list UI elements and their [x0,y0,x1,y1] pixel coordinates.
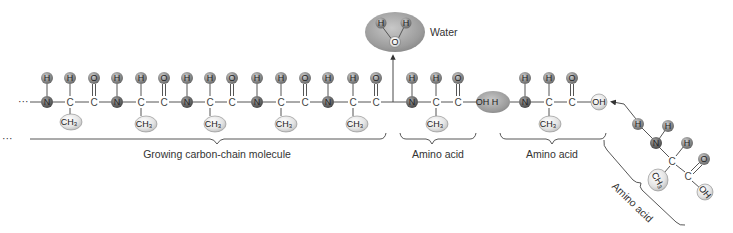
svg-text:O: O [568,73,575,83]
growing-chain-bracket [30,133,386,144]
svg-text:H: H [433,73,440,83]
svg-text:O: O [372,73,379,83]
c-atom: C [372,97,379,108]
svg-text:OH H: OH H [476,97,499,107]
removed-oh-h: OH H [476,91,510,113]
svg-text:N: N [522,97,529,107]
c-atom: C [668,156,675,167]
svg-text:H: H [67,73,74,83]
bracket-ellipsis: ··· [2,132,13,144]
svg-text:OH: OH [592,97,606,107]
svg-text:O: O [700,154,707,164]
c-atom: C [277,97,284,108]
svg-text:H: H [409,73,416,83]
svg-text:N: N [653,138,660,148]
svg-text:O: O [454,73,461,83]
c-atom: C [301,97,308,108]
svg-text:N: N [325,97,332,107]
svg-text:H: H [635,119,642,129]
c-atom: C [568,97,575,108]
amino-acid-label-1: Amino acid [412,148,464,160]
c-atom: C [228,97,235,108]
amino-acid-1-bracket [400,133,476,144]
svg-text:O: O [160,73,167,83]
svg-text:H: H [522,73,529,83]
amino-acid-label-3: Amino acid [610,180,656,225]
svg-text:H: H [684,138,691,148]
amino-acid-incoming: H H N H C O CH3 C OH [632,118,713,200]
svg-text:H: H [278,73,285,83]
c-atom: C [349,97,356,108]
svg-text:H: H [254,73,261,83]
svg-text:N: N [409,97,416,107]
chain-unit: H N H C CH3 O C [41,72,100,130]
growing-chain-label: Growing carbon-chain molecule [143,148,291,160]
svg-text:N: N [114,97,121,107]
svg-text:O: O [301,73,308,83]
svg-text:H: H [207,73,214,83]
chain-unit: H N H C CH3 O C [251,72,311,132]
svg-text:H: H [546,73,553,83]
svg-text:H: H [184,73,191,83]
svg-text:O: O [90,73,97,83]
svg-text:H: H [665,121,672,131]
water-label: Water [430,26,458,38]
svg-text:O: O [228,73,235,83]
c-atom: C [684,171,691,182]
peptide-chain-diagram: H H O Water ··· [0,0,733,233]
c-atom: C [66,97,73,108]
c-atom: C [206,97,213,108]
svg-text:H: H [350,73,357,83]
svg-text:O: O [391,37,398,47]
growing-chain: H N H C CH3 O C H N H C CH3 O C [41,72,382,132]
c-atom: C [90,97,97,108]
svg-text:H: H [114,73,121,83]
svg-text:H: H [378,18,385,28]
chain-continuation-ellipsis: ··· [18,95,29,107]
water-molecule: H H O Water [365,12,458,52]
c-atom: C [137,97,144,108]
brackets: ··· [2,132,685,225]
amino-acid-joining: H N H C CH3 O C [406,72,464,132]
c-atom: C [160,97,167,108]
svg-text:N: N [44,97,51,107]
svg-text:N: N [254,97,261,107]
c-atom: C [432,97,439,108]
svg-text:H: H [44,73,51,83]
chain-unit: H N H C CH3 O C [111,72,170,132]
c-atom: C [545,97,552,108]
amino-acid-label-2: Amino acid [526,148,578,160]
chain-unit: H N H C CH3 O C [181,72,238,132]
svg-text:H: H [138,73,145,83]
svg-text:H: H [325,73,332,83]
chain-unit: H N H C CH3 O C [322,72,382,132]
svg-text:H: H [403,18,410,28]
svg-text:N: N [184,97,191,107]
c-atom: C [454,97,461,108]
amino-acid-2-bracket [500,133,606,144]
